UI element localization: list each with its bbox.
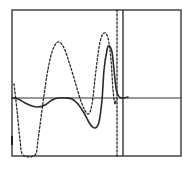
waveform-plot <box>0 0 190 169</box>
